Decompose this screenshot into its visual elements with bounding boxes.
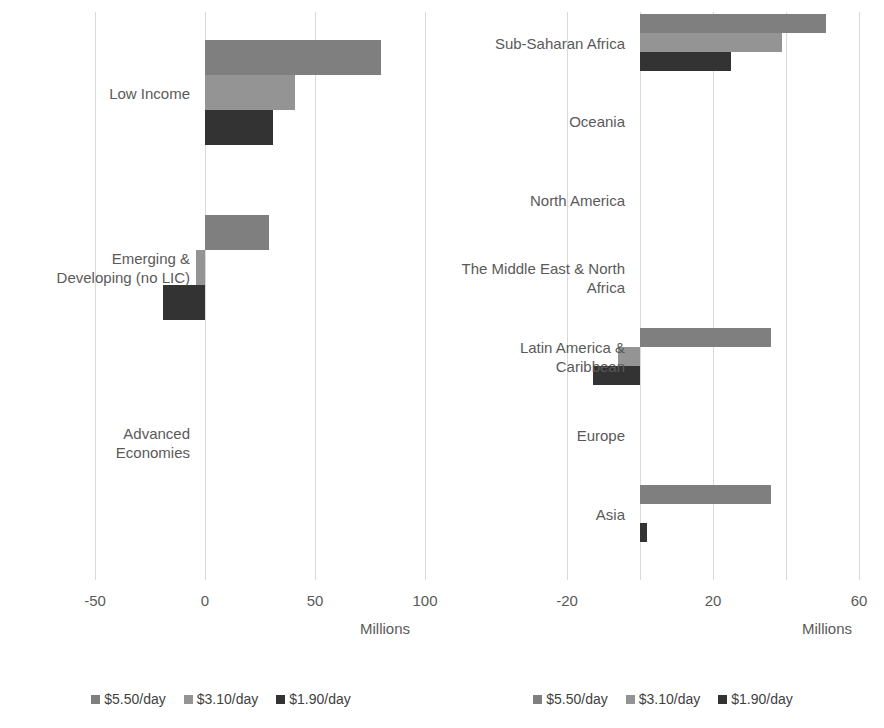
legend-label-190: $1.90/day [731, 692, 793, 706]
legend-item-310[interactable]: $3.10/day [626, 692, 701, 706]
legend-swatch-icon-550 [533, 695, 542, 704]
bar-right-6-0[interactable] [640, 485, 771, 504]
legend-item-550[interactable]: $5.50/day [91, 692, 166, 706]
bar-left-1-1[interactable] [196, 250, 205, 285]
left-chart-panel: Low IncomeEmerging & Developing (no LIC)… [0, 0, 442, 728]
bar-right-6-2[interactable] [640, 523, 647, 542]
right-xtick-1: 20 [705, 592, 722, 609]
gridline-50 [315, 12, 316, 580]
legend-swatch-icon-190 [276, 695, 285, 704]
left-xtick-1: 0 [201, 592, 209, 609]
chart-page: Low IncomeEmerging & Developing (no LIC)… [0, 0, 884, 728]
legend-item-190[interactable]: $1.90/day [276, 692, 351, 706]
legend-label-190: $1.90/day [289, 692, 351, 706]
legend-label-310: $3.10/day [639, 692, 701, 706]
legend-label-550: $5.50/day [104, 692, 166, 706]
bar-left-1-2[interactable] [163, 285, 205, 320]
left-xtick-2: 50 [307, 592, 324, 609]
legend-swatch-icon-310 [184, 695, 193, 704]
left-xtick-0: -50 [84, 592, 106, 609]
bar-left-1-0[interactable] [205, 215, 269, 250]
legend-label-550: $5.50/day [546, 692, 608, 706]
left-axis-title: Millions [360, 620, 410, 637]
bar-left-0-2[interactable] [205, 110, 273, 145]
gridline-40 [786, 12, 787, 580]
bar-left-0-1[interactable] [205, 75, 295, 110]
legend-item-190[interactable]: $1.90/day [718, 692, 793, 706]
left-legend: $5.50/day $3.10/day $1.90/day [0, 692, 442, 706]
left-xtick-3: 100 [412, 592, 437, 609]
category-label-left-2: Advanced Economies [0, 424, 190, 462]
gridline-60 [859, 12, 860, 580]
legend-swatch-icon-310 [626, 695, 635, 704]
category-label-right-5: Europe [442, 426, 625, 445]
category-label-right-1: Oceania [442, 112, 625, 131]
right-legend: $5.50/day $3.10/day $1.90/day [442, 692, 884, 706]
legend-item-550[interactable]: $5.50/day [533, 692, 608, 706]
category-label-right-4: Latin America & Caribbean [442, 338, 625, 376]
category-label-right-3: The Middle East & North Africa [442, 259, 625, 297]
category-label-right-6: Asia [442, 504, 625, 523]
bar-right-4-0[interactable] [640, 328, 771, 347]
bar-right-0-2[interactable] [640, 52, 731, 71]
category-label-left-0: Low Income [0, 83, 190, 102]
gridline-100 [425, 12, 426, 580]
bar-left-0-0[interactable] [205, 40, 381, 75]
bar-right-0-1[interactable] [640, 33, 782, 52]
bar-right-0-0[interactable] [640, 14, 826, 33]
right-plot-area: Sub-Saharan AfricaOceaniaNorth AmericaTh… [442, 0, 884, 596]
category-label-right-0: Sub-Saharan Africa [442, 33, 625, 52]
legend-label-310: $3.10/day [197, 692, 259, 706]
left-plot-area: Low IncomeEmerging & Developing (no LIC)… [0, 0, 442, 596]
category-label-left-1: Emerging & Developing (no LIC) [0, 249, 190, 287]
category-label-right-2: North America [442, 190, 625, 209]
right-xtick-0: -20 [556, 592, 578, 609]
legend-swatch-icon-190 [718, 695, 727, 704]
right-chart-panel: Sub-Saharan AfricaOceaniaNorth AmericaTh… [442, 0, 884, 728]
legend-item-310[interactable]: $3.10/day [184, 692, 259, 706]
right-xtick-2: 60 [851, 592, 868, 609]
legend-swatch-icon-550 [91, 695, 100, 704]
right-axis-title: Millions [802, 620, 852, 637]
